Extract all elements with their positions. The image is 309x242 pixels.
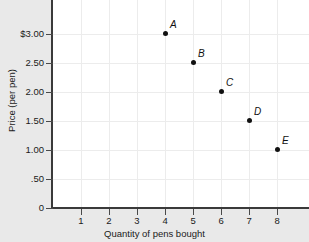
data-point-label-b: B — [198, 49, 205, 59]
x-axis-tick-label: 1 — [71, 216, 91, 226]
data-point-label-a: A — [170, 20, 177, 30]
x-axis-tick-label: 5 — [183, 216, 203, 226]
y-axis-line — [51, 0, 53, 209]
y-axis-tick-label: 1.00 — [26, 145, 45, 155]
y-axis-tick-label: 1.50 — [26, 116, 45, 126]
y-axis-tick-mark — [46, 34, 53, 35]
gridline-horizontal — [53, 92, 309, 93]
y-axis-tick-mark — [46, 179, 53, 180]
y-axis-tick-mark — [46, 121, 53, 122]
x-axis-tick-label: 2 — [99, 216, 119, 226]
y-axis-tick-mark — [46, 150, 53, 151]
gridline-horizontal — [53, 121, 309, 122]
x-axis-line — [51, 207, 309, 209]
gridline-vertical — [193, 0, 194, 208]
data-point-d — [247, 118, 252, 123]
y-axis-tick-mark — [46, 92, 53, 93]
y-axis-tick-label: 0 — [39, 203, 44, 213]
x-axis-tick-label: 3 — [127, 216, 147, 226]
x-axis-title: Quantity of pens bought — [0, 228, 309, 239]
y-axis-tick-mark — [46, 208, 53, 209]
x-axis-tick-label: 4 — [155, 216, 175, 226]
y-axis-title: Price (per pen) — [6, 46, 17, 156]
data-point-label-e: E — [282, 136, 289, 146]
x-axis-tick-label: 6 — [211, 216, 231, 226]
y-axis-tick-label: $3.00 — [20, 29, 44, 39]
gridline-horizontal — [53, 63, 309, 64]
data-point-b — [191, 60, 196, 65]
plot-area: ABCDE — [53, 0, 309, 208]
gridline-horizontal — [53, 34, 309, 35]
data-point-e — [275, 147, 280, 152]
gridline-vertical — [81, 0, 82, 208]
gridline-vertical — [221, 0, 222, 208]
gridline-vertical — [137, 0, 138, 208]
y-axis-tick-label: .50 — [31, 174, 44, 184]
y-axis-tick-label: 2.50 — [26, 58, 45, 68]
gridline-horizontal — [53, 150, 309, 151]
y-axis-tick-mark — [46, 63, 53, 64]
gridline-vertical — [249, 0, 250, 208]
data-point-label-d: D — [254, 107, 261, 117]
data-point-a — [163, 31, 168, 36]
x-axis-tick-label: 7 — [239, 216, 259, 226]
gridline-horizontal — [53, 179, 309, 180]
y-axis-tick-label: 2.00 — [26, 87, 45, 97]
scatter-chart: ABCDE 0.501.001.502.002.50$3.00 12345678… — [0, 0, 309, 242]
gridline-vertical — [109, 0, 110, 208]
data-point-c — [219, 89, 224, 94]
data-point-label-c: C — [226, 78, 233, 88]
x-axis-tick-label: 8 — [267, 216, 287, 226]
gridline-vertical — [277, 0, 278, 208]
